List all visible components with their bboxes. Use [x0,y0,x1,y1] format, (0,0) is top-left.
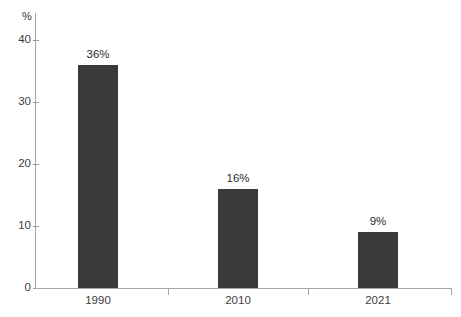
x-axis-line [35,288,452,289]
y-tick-label-20: 20 [5,157,31,169]
y-tick-label-0: 0 [5,281,31,293]
x-tick-mark-3 [451,289,452,295]
bar-value-label-1990: 36% [68,48,128,60]
bar-value-label-2010: 16% [208,172,268,184]
y-tick-mark-20 [33,164,39,165]
y-tick-mark-10 [33,226,39,227]
bar-2010 [218,189,258,288]
x-tick-mark-1 [168,289,169,295]
y-tick-label-10: 10 [5,219,31,231]
y-tick-label-30: 30 [5,95,31,107]
y-axis-unit-label: % [22,10,32,22]
bar-2021 [358,232,398,288]
x-category-label-1990: 1990 [68,294,128,306]
y-tick-mark-40 [33,40,39,41]
x-tick-mark-2 [308,289,309,295]
bar-1990 [78,65,118,288]
y-axis-line [35,13,36,289]
x-category-label-2010: 2010 [208,294,268,306]
y-tick-label-40: 40 [5,33,31,45]
x-category-label-2021: 2021 [348,294,408,306]
bar-value-label-2021: 9% [348,215,408,227]
y-tick-mark-30 [33,102,39,103]
bar-chart: % 40 30 20 10 0 36% 1990 16% 2010 9% 202… [0,0,461,317]
